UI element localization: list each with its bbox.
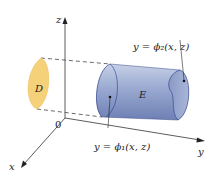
y-axis [65,118,205,143]
region-d-label: D [34,83,43,94]
diagram-canvas: z y x 0 D E y = ϕ₂(x, z) y = ϕ₁(x, z) [0,0,216,178]
region-e-label: E [138,89,147,100]
z-axis-label: z [55,14,62,25]
x-axis-label: x [9,161,15,172]
origin-label: 0 [55,119,61,130]
phi1-surface-label: y = ϕ₁(x, z) [93,141,150,152]
phi2-surface-label: y = ϕ₂(x, z) [132,41,189,52]
phi2-point [183,80,186,83]
z-axis [63,17,68,118]
y-axis-label: y [197,146,204,157]
phi1-point [109,96,112,99]
